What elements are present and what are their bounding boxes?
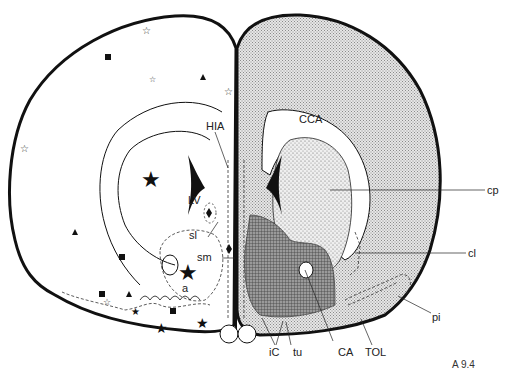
label-ic: iC xyxy=(269,346,279,358)
right-hemisphere xyxy=(237,15,440,335)
optic-nerve-left xyxy=(220,325,238,343)
ca-hole xyxy=(299,262,313,278)
open-star-marker: ☆ xyxy=(142,25,151,36)
open-star-marker: ☆ xyxy=(149,75,156,84)
open-star-marker: ☆ xyxy=(103,297,111,307)
label-ca: CA xyxy=(338,346,354,358)
filled-star-marker: ★ xyxy=(196,315,209,331)
left-cortex-outline xyxy=(10,16,236,332)
filled-star-marker: ★ xyxy=(131,306,140,317)
filled-square-marker xyxy=(105,54,111,60)
label-sm: sm xyxy=(197,251,212,263)
filled-star-marker: ★ xyxy=(141,167,161,192)
label-cl: cl xyxy=(468,247,476,259)
filled-square-marker xyxy=(119,254,125,260)
optic-nerve-right xyxy=(238,325,256,343)
label-a: a xyxy=(182,282,189,294)
left-hemisphere xyxy=(10,16,236,332)
label-pi: pi xyxy=(432,311,441,323)
open-star-marker: ☆ xyxy=(20,143,29,154)
brain-section-diagram: ☆ ☆ ☆ ☆ ☆ ★ ★ ★ ★ ★ HIA CCA LV sl sm xyxy=(0,0,513,384)
open-star-marker: ☆ xyxy=(224,86,233,97)
label-tol: TOL xyxy=(365,346,386,358)
label-cp: cp xyxy=(487,184,499,196)
label-lv: LV xyxy=(188,194,201,206)
label-tu: tu xyxy=(293,346,302,358)
filled-star-marker: ★ xyxy=(155,320,168,336)
label-sl: sl xyxy=(189,229,197,241)
filled-square-marker xyxy=(170,308,176,314)
label-hia: HIA xyxy=(206,120,225,132)
label-cca: CCA xyxy=(299,113,323,125)
filled-square-marker xyxy=(99,291,105,297)
plate-id: A 9.4 xyxy=(452,359,475,370)
